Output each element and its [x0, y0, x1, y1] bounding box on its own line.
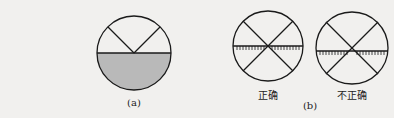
correct-caption: 正确 — [258, 87, 278, 102]
figure-a-circle — [97, 16, 171, 90]
figure-a-label: (a) — [127, 97, 141, 108]
diagram-canvas — [0, 0, 394, 118]
incorrect-caption: 不正确 — [337, 87, 367, 102]
right-ray — [134, 27, 160, 53]
figure-b-incorrect-circle — [316, 12, 388, 84]
figure-b-correct-circle — [233, 11, 303, 81]
shaded-lower-half — [97, 53, 171, 90]
left-ray — [108, 27, 134, 53]
figure-b-label: (b) — [303, 100, 317, 111]
